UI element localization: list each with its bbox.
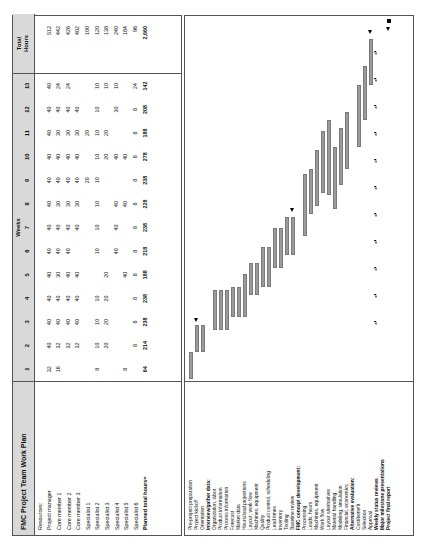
- hours-cell: 10: [102, 74, 112, 98]
- hours-cell: 228: [141, 192, 151, 216]
- hours-cell: 40: [73, 287, 83, 311]
- hours-cell: [112, 334, 122, 358]
- gantt-bar[interactable]: [237, 287, 242, 317]
- hours-cell: [102, 169, 112, 193]
- hours-cell: 40: [64, 239, 74, 263]
- gantt-bar[interactable]: [345, 112, 350, 169]
- gantt-bar[interactable]: [333, 147, 338, 209]
- hours-cell: 10: [112, 74, 122, 98]
- hours-cell: 10: [93, 145, 103, 169]
- gantt-plot-area: [185, 16, 413, 381]
- gantt-bar[interactable]: [225, 290, 230, 330]
- week-number-row: 12345678910111213: [24, 74, 33, 381]
- hours-cell: 40: [121, 192, 131, 216]
- triangle-inner: [375, 106, 377, 108]
- milestone-triangle-icon: [194, 318, 198, 322]
- hours-cell: [121, 287, 131, 311]
- hours-cell: [35, 121, 45, 145]
- resource-hours-row: 404040403010: [112, 74, 122, 381]
- week-header-4: 4: [24, 287, 33, 311]
- gantt-bar[interactable]: [219, 290, 224, 330]
- hours-cell: [83, 357, 93, 381]
- gantt-bar[interactable]: [231, 287, 236, 317]
- gantt-bar[interactable]: [285, 217, 290, 255]
- week-header-12: 12: [24, 98, 33, 122]
- gantt-bar[interactable]: [201, 325, 206, 352]
- hours-cell: 30: [112, 98, 122, 122]
- gantt-bar[interactable]: [369, 39, 374, 85]
- gantt-bar[interactable]: [243, 274, 248, 317]
- hours-cell: 24: [64, 74, 74, 98]
- hours-cell: 20: [102, 310, 112, 334]
- hours-cell: [73, 357, 83, 381]
- hours-cell: 40: [64, 169, 74, 193]
- hours-cell: [102, 192, 112, 216]
- gantt-bar[interactable]: [279, 228, 284, 268]
- resource-label: Core member 3: [73, 382, 83, 535]
- hours-cell: 40: [112, 192, 122, 216]
- hours-cell: 8: [131, 239, 141, 263]
- hours-cell: 40: [64, 98, 74, 122]
- rotated-chart-canvas: FMC Project Team Work Plan Resources:Pro…: [6, 7, 421, 542]
- hours-cell: [131, 357, 141, 381]
- hours-cell: 40: [45, 98, 55, 122]
- hours-cell: [35, 98, 45, 122]
- gantt-bar[interactable]: [363, 66, 368, 120]
- total-hours-cell: 426: [64, 14, 74, 73]
- hours-cell: [83, 239, 93, 263]
- hours-cell: 40: [73, 145, 83, 169]
- gantt-bar[interactable]: [357, 85, 362, 147]
- hours-cell: 10: [93, 74, 103, 98]
- hours-cell: 64: [141, 357, 151, 381]
- hours-cell: 40: [121, 145, 131, 169]
- gantt-bar[interactable]: [273, 228, 278, 268]
- resource-label: Specialist 3: [102, 382, 112, 535]
- triangle-inner: [375, 187, 377, 189]
- milestone-square-icon: [387, 19, 391, 23]
- gantt-bar[interactable]: [309, 169, 314, 215]
- gantt-chart: Pre-project preparationProject kickoffOr…: [184, 15, 414, 536]
- gantt-bar[interactable]: [315, 150, 320, 207]
- hours-cell: 40: [45, 74, 55, 98]
- total-hours-cell: 2,660: [141, 14, 151, 73]
- gantt-bar[interactable]: [213, 290, 218, 330]
- week-header-10: 10: [24, 145, 33, 169]
- gantt-bar[interactable]: [267, 247, 272, 287]
- hours-cell: 40: [45, 169, 55, 193]
- hours-cell: 20: [102, 121, 112, 145]
- gantt-bar[interactable]: [321, 131, 326, 193]
- total-hours-cell: 184: [121, 14, 131, 73]
- gantt-bar[interactable]: [303, 174, 308, 236]
- gantt-bar[interactable]: [291, 217, 296, 255]
- status-review-triangle-icon: [374, 78, 378, 82]
- triangle-inner: [375, 214, 377, 216]
- gantt-bar[interactable]: [339, 128, 344, 185]
- gantt-row: [386, 16, 392, 381]
- gantt-bar[interactable]: [327, 120, 332, 196]
- hours-cell: [102, 239, 112, 263]
- hours-cell: [83, 98, 93, 122]
- gantt-bar[interactable]: [261, 247, 266, 287]
- gantt-bar[interactable]: [255, 263, 260, 295]
- hours-cell: 40: [54, 98, 64, 122]
- hours-cell: 20: [102, 145, 112, 169]
- hours-cell: 40: [45, 334, 55, 358]
- gantt-bar[interactable]: [189, 352, 194, 379]
- hours-cell: 20: [102, 287, 112, 311]
- hours-cell: 8: [131, 169, 141, 193]
- hours-cell: [73, 239, 83, 263]
- total-hours-header: Total Hours: [13, 14, 29, 73]
- hours-cell: 208: [141, 98, 151, 122]
- hours-cell: 40: [54, 310, 64, 334]
- total-hours-header-line2: Hours: [23, 14, 30, 73]
- milestone-triangle-icon: [290, 208, 294, 212]
- triangle-inner: [375, 79, 377, 81]
- task-label: Project final report: [386, 382, 392, 535]
- milestone-triangle-icon: [386, 27, 390, 31]
- hours-cell: [35, 357, 45, 381]
- resource-label: Specialist 2: [93, 382, 103, 535]
- hours-cell: [73, 74, 83, 98]
- work-plan-sheet: FMC Project Team Work Plan Resources:Pro…: [12, 15, 414, 536]
- gantt-bar[interactable]: [195, 325, 200, 352]
- gantt-bar[interactable]: [249, 263, 254, 295]
